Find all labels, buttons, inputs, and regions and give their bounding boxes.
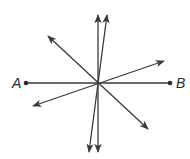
point-a-label: A [11,75,21,91]
point-b-dot [168,81,173,86]
geometry-diagram: A B [0,0,190,159]
point-a-dot [24,81,29,86]
point-b-label: B [176,75,185,91]
